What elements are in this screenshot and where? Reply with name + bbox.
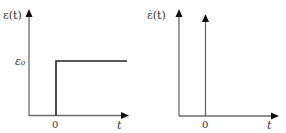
level-label: ε₀ — [15, 55, 26, 68]
right-origin-label: 0 — [202, 119, 208, 130]
impulse-arrow-icon — [202, 14, 209, 22]
strain-diagram: ε(t) ε₀ 0 t ε̇(t) 0 t — [0, 0, 286, 133]
right-x-axis-arrow-icon — [271, 113, 279, 120]
impulse-plot: ε̇(t) 0 t — [147, 9, 279, 132]
left-origin-label: 0 — [52, 119, 58, 130]
right-y-axis-arrow-icon — [176, 9, 183, 17]
left-y-label: ε(t) — [3, 9, 22, 22]
right-y-label: ε̇(t) — [147, 9, 166, 22]
left-x-axis-arrow-icon — [121, 112, 129, 119]
left-x-label: t — [117, 119, 122, 132]
right-x-label: t — [267, 119, 272, 132]
left-y-axis-arrow-icon — [26, 9, 33, 17]
step-plot: ε(t) ε₀ 0 t — [3, 9, 129, 132]
step-signal — [56, 61, 127, 116]
